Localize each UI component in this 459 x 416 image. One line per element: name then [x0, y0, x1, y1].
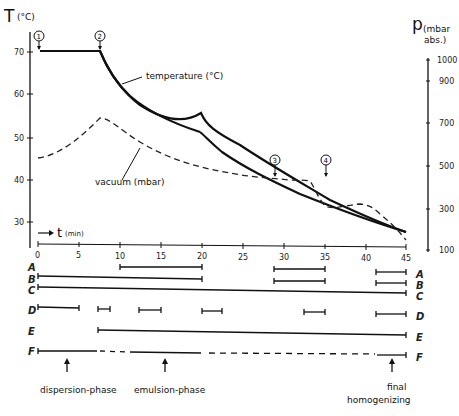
right-axis-symbol: p: [412, 14, 423, 34]
row-label-f-left: F: [28, 346, 35, 357]
x-tick-10: 10: [115, 252, 125, 261]
row-label-c-right: C: [416, 291, 424, 302]
right-axis-unit-2: abs.): [424, 35, 446, 45]
y-tick-70: 70: [14, 48, 24, 57]
right-axis: 1000 900 700 500 300 100: [426, 56, 457, 255]
activity-rows: [38, 264, 406, 358]
marker-4: 4: [321, 155, 331, 177]
emulsion-phase-label: emulsion-phase: [134, 385, 206, 395]
p-tick-1000: 1000: [437, 56, 457, 65]
x-tick-30: 30: [279, 253, 289, 262]
y-tick-60: 60: [14, 90, 24, 99]
marker-2: 2: [95, 31, 105, 50]
left-axis: 70 60 50 40 30: [14, 32, 33, 248]
x-tick-0: 0: [35, 251, 40, 260]
homogenizing-label: homogenizing: [347, 395, 411, 405]
row-label-a-left: A: [27, 262, 36, 273]
x-tick-25: 25: [238, 253, 248, 262]
svg-text:2: 2: [98, 33, 102, 41]
emulsion-phase-arrow: [162, 358, 168, 372]
x-axis: 0 5 10 15 20 25 30 35 40 45 t (min): [35, 225, 411, 263]
marker-1: 1: [34, 31, 44, 50]
row-label-b-left: B: [28, 274, 36, 285]
vacuum-curve: [38, 118, 406, 240]
x-axis-unit: (min): [65, 230, 84, 238]
p-tick-300: 300: [439, 205, 454, 214]
x-axis-name: t: [57, 225, 62, 240]
row-label-a-right: A: [415, 269, 424, 280]
row-label-e-right: E: [416, 332, 423, 343]
right-axis-unit-1: (mbar: [423, 24, 451, 34]
row-label-f-right: F: [416, 352, 423, 363]
x-tick-45: 45: [401, 254, 411, 263]
p-tick-500: 500: [439, 162, 454, 171]
svg-text:3: 3: [273, 157, 277, 165]
p-tick-900: 900: [439, 77, 454, 86]
row-label-d-right: D: [416, 311, 424, 322]
left-axis-unit: (°C): [17, 12, 35, 22]
x-tick-15: 15: [156, 252, 166, 261]
row-label-b-right: B: [416, 280, 424, 291]
process-chart: T (°C) p (mbar abs.) 70 60 50 40 30 1000…: [0, 0, 459, 416]
x-tick-20: 20: [197, 252, 207, 261]
svg-text:1: 1: [37, 33, 41, 41]
y-tick-50: 50: [14, 134, 24, 143]
y-tick-40: 40: [14, 176, 24, 185]
temperature-label: temperature (°C): [146, 71, 223, 81]
final-homogenizing-arrow: [389, 358, 395, 372]
left-axis-symbol: T: [3, 6, 15, 26]
row-label-d-left: D: [28, 305, 36, 316]
dispersion-phase-arrow: [64, 358, 70, 372]
x-tick-5: 5: [76, 251, 81, 260]
x-tick-35: 35: [320, 253, 330, 262]
final-label: final: [387, 382, 406, 392]
p-tick-100: 100: [439, 246, 454, 255]
vacuum-label: vacuum (mbar): [95, 177, 165, 187]
svg-text:4: 4: [324, 157, 329, 165]
x-tick-40: 40: [361, 254, 371, 263]
y-tick-30: 30: [14, 218, 24, 227]
row-label-c-left: C: [28, 285, 36, 296]
row-label-e-left: E: [28, 326, 35, 337]
dispersion-phase-label: dispersion-phase: [40, 385, 117, 395]
p-tick-700: 700: [439, 119, 454, 128]
